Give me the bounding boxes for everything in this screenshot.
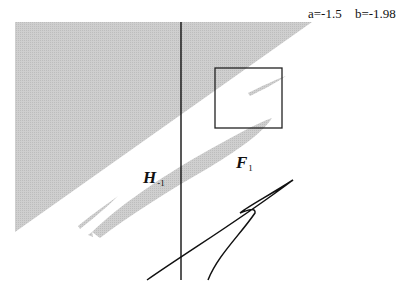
- basin-diagram: [0, 0, 405, 299]
- small-fragment: [88, 232, 93, 237]
- manifold-curve: [147, 180, 293, 280]
- h-region-label: H-1: [143, 168, 165, 188]
- a-parameter: a=-1.5: [308, 6, 342, 21]
- b-parameter: b=-1.98: [355, 6, 396, 21]
- f-region-label: F1: [236, 153, 253, 173]
- shaded-basin-region: [15, 22, 312, 232]
- parameter-label: a=-1.5 b=-1.98: [308, 6, 405, 22]
- thin-sliver-upper: [248, 76, 286, 96]
